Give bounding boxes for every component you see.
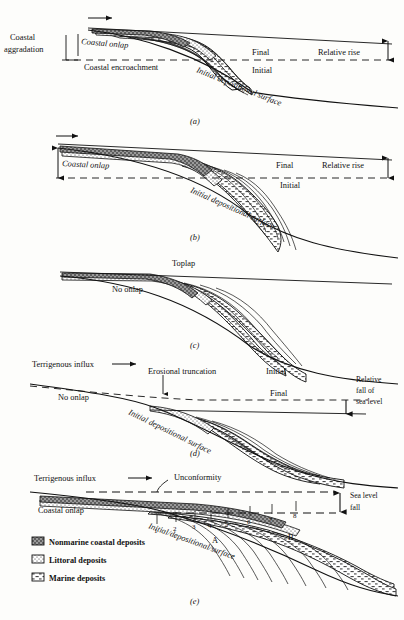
panel-a-final-label: Final (252, 48, 270, 57)
panel-a-aggradation-bracket (66, 35, 78, 60)
panel-a-initial-label: Initial (252, 66, 273, 75)
panel-d: Terrigenous influx Erosional truncation … (30, 360, 398, 488)
panel-d-id: (d) (190, 449, 200, 458)
legend-swatch-nonmarine (32, 537, 44, 545)
panel-e-coastal-onlap-label: Coastal onlap (38, 506, 84, 515)
panel-b-relative-rise-label: Relative rise (322, 161, 364, 170)
deposit-legend: Nonmarine coastal deposits Littoral depo… (32, 537, 145, 583)
panel-e-clinoform-number-4: 4 (208, 522, 212, 530)
panel-e-clinoform-number-5: 5 (225, 520, 229, 528)
panel-a-id: (a) (190, 117, 200, 126)
panel-e-clinoform-number-3: 3 (192, 523, 196, 531)
panel-d-final-label: Final (270, 389, 288, 398)
panel-e-sea-level-fall-label-1: Sea level (350, 491, 378, 500)
legend-label-marine: Marine deposits (49, 574, 105, 583)
legend-label-littoral: Littoral deposits (49, 556, 107, 565)
panel-e-id: (e) (190, 597, 200, 606)
panel-c-basin-floor (60, 276, 398, 384)
panel-e-clinoform-number-8: 8 (293, 512, 297, 520)
stratigraphy-figure: Coastal aggradation Coastal onlap Coasta… (0, 0, 404, 620)
panel-c: Toplap No onlap (c) (60, 259, 398, 384)
legend-label-nonmarine: Nonmarine coastal deposits (49, 538, 145, 547)
panel-e: 1 2 3 4 5 6 7 8 Terrigenous influx Uncon… (30, 473, 398, 606)
panel-a-coastal-aggradation-label-1: Coastal (10, 33, 36, 42)
panel-d-no-onlap-label: No onlap (58, 393, 89, 402)
panel-c-toplap-label: Toplap (172, 259, 195, 268)
panel-e-marker-b: B (288, 533, 294, 542)
panel-a-coastal-aggradation-label-2: aggradation (4, 45, 44, 54)
panel-e-unconformity-label: Unconformity (174, 473, 222, 482)
panel-b-coastal-onlap-label: Coastal onlap (62, 159, 110, 170)
panel-d-relative-fall-label-1: Relative (356, 375, 382, 384)
panel-c-id: (c) (190, 341, 200, 350)
panel-a: Coastal aggradation Coastal onlap Coasta… (4, 18, 398, 126)
panel-d-relative-fall-label-3: sea level (356, 397, 382, 406)
panel-e-terrigenous-influx-label: Terrigenous influx (34, 474, 97, 483)
panel-b: Coastal onlap Final Initial Relative ris… (56, 136, 398, 258)
panel-d-erosional-truncation-label: Erosional truncation (148, 367, 217, 376)
panel-a-coastal-encroachment-label: Coastal encroachment (84, 63, 159, 72)
legend-swatch-marine (32, 573, 44, 581)
panel-c-no-onlap-label: No onlap (112, 285, 143, 294)
panel-e-clinoform-number-6: 6 (247, 518, 251, 526)
panel-d-relative-fall-label-2: fall of (356, 386, 375, 395)
panel-d-initial-label: Initial (266, 367, 287, 376)
panel-d-terrigenous-influx-label: Terrigenous influx (32, 360, 95, 369)
legend-swatch-littoral (32, 555, 44, 563)
panel-b-final-label: Final (276, 161, 294, 170)
panel-c-marine-wedge (148, 278, 286, 376)
panel-e-unconformity-leader (157, 480, 168, 492)
panel-e-sea-level-fall-label-2: fall (350, 503, 360, 512)
panel-b-initial-label: Initial (280, 181, 301, 190)
panel-a-relative-rise-label: Relative rise (318, 48, 360, 57)
panel-b-id: (b) (190, 233, 200, 242)
panel-a-coastal-onlap-label: Coastal onlap (81, 37, 129, 50)
panel-e-clinoform-number-7: 7 (269, 516, 273, 524)
